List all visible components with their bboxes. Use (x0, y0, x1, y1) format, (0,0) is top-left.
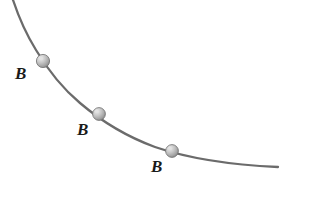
bead-1 (93, 108, 106, 121)
bead-label-b-1: B (15, 65, 26, 82)
bead-sphere (93, 108, 106, 121)
bead-2 (166, 145, 179, 158)
bead-highlight (168, 147, 172, 150)
bead-sphere (36, 54, 49, 67)
bead-highlight (95, 110, 99, 113)
wire-curve (13, 0, 278, 167)
bead-0 (36, 54, 49, 67)
bead-label-b-3: B (151, 158, 162, 175)
bead-sphere (166, 145, 179, 158)
figure-canvas: B B B (0, 0, 332, 197)
bead-highlight (39, 57, 43, 60)
bead-label-b-2: B (77, 121, 88, 138)
figure-svg (0, 0, 332, 197)
